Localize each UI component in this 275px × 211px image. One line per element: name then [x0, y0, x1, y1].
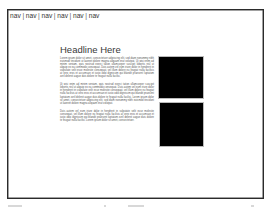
nav-bar: nav|nav|nav|nav|nav|nav — [10, 12, 99, 19]
nav-link-1[interactable]: nav — [10, 12, 21, 19]
nav-link-3[interactable]: nav — [41, 12, 52, 19]
headline: Headline Here — [60, 44, 121, 55]
nav-link-5[interactable]: nav — [73, 12, 84, 19]
nav-link-4[interactable]: nav — [57, 12, 68, 19]
image-placeholder-2 — [159, 102, 204, 147]
body-paragraph-3: Duis autem vel eum iriure dolor in hendr… — [60, 110, 154, 122]
faint-mark — [128, 205, 144, 207]
body-paragraph-1: Lorem ipsum dolor sit amet, consectetuer… — [60, 57, 154, 78]
nav-link-6[interactable]: nav — [89, 12, 100, 19]
image-placeholder-1 — [158, 56, 204, 99]
faint-mark — [104, 205, 106, 207]
article-body: Lorem ipsum dolor sit amet, consectetuer… — [60, 57, 154, 127]
wireframe-page-frame: nav|nav|nav|nav|nav|nav Headline Here Lo… — [7, 9, 264, 199]
faint-mark — [8, 205, 22, 207]
faint-mark — [251, 205, 254, 207]
body-paragraph-2: Ut wisi enim ad minim veniam, quis nostr… — [60, 83, 154, 104]
cropped-caption-fragments — [0, 202, 275, 211]
nav-link-2[interactable]: nav — [26, 12, 37, 19]
